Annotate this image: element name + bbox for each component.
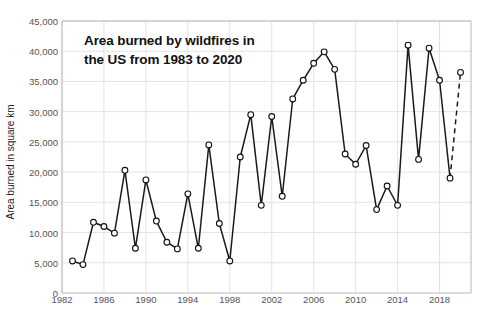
data-point-marker <box>437 77 443 83</box>
data-point-marker <box>227 258 233 264</box>
data-point-marker <box>237 154 243 160</box>
data-point-marker <box>311 60 317 66</box>
data-point-marker <box>332 66 338 72</box>
data-point-marker <box>185 191 191 197</box>
data-point-marker <box>91 219 97 225</box>
x-axis-tick-label: 2018 <box>429 294 450 305</box>
data-point-marker <box>216 221 222 227</box>
data-point-marker <box>80 262 86 268</box>
wildfire-area-line-chart: Area burned in square km 05,00010,00015,… <box>0 0 480 323</box>
x-axis-tick-label: 2006 <box>303 294 324 305</box>
data-point-marker <box>321 49 327 55</box>
data-point-marker <box>353 161 359 167</box>
data-point-marker <box>447 175 453 181</box>
data-point-marker <box>279 193 285 199</box>
x-axis-tick-label: 1994 <box>177 294 198 305</box>
data-series-line <box>72 45 450 264</box>
data-point-marker <box>395 202 401 208</box>
data-point-marker <box>374 207 380 213</box>
data-point-marker <box>133 245 139 251</box>
data-point-marker <box>248 112 254 118</box>
data-point-marker <box>112 230 118 236</box>
x-axis-tick-label: 2014 <box>387 294 408 305</box>
data-point-marker <box>458 69 464 75</box>
x-axis-tick-label: 1986 <box>93 294 114 305</box>
data-point-marker <box>70 258 76 264</box>
data-point-marker <box>300 77 306 83</box>
data-point-marker <box>342 151 348 157</box>
x-axis-tick-label: 2010 <box>345 294 366 305</box>
data-lines <box>72 45 460 264</box>
data-point-marker <box>174 246 180 252</box>
x-axis-tick-label: 1982 <box>51 294 72 305</box>
data-point-marker <box>405 42 411 48</box>
data-point-marker <box>206 142 212 148</box>
data-point-marker <box>363 143 369 149</box>
data-point-marker <box>258 202 264 208</box>
data-point-marker <box>384 183 390 189</box>
data-point-marker <box>290 96 296 102</box>
x-axis-tick-label: 1998 <box>219 294 240 305</box>
chart-title: Area burned by wildfires in the US from … <box>84 32 255 69</box>
data-point-marker <box>153 218 159 224</box>
data-point-marker <box>143 177 149 183</box>
data-point-marker <box>416 157 422 163</box>
x-axis-tick-label: 1990 <box>135 294 156 305</box>
data-point-marker <box>269 114 275 120</box>
x-axis-tick-labels: 1982198619901994199820022006201020142018 <box>0 294 480 314</box>
data-point-marker <box>195 245 201 251</box>
data-point-marker <box>122 167 128 173</box>
data-point-marker <box>164 239 170 245</box>
data-point-marker <box>426 45 432 51</box>
x-axis-tick-label: 2002 <box>261 294 282 305</box>
data-series-line <box>450 72 460 178</box>
data-point-marker <box>101 224 107 230</box>
